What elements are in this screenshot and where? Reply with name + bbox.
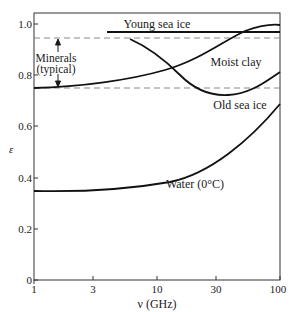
y-tick-label: 0.2 bbox=[18, 223, 32, 235]
water-curve bbox=[34, 104, 280, 191]
young-sea-ice-label: Young sea ice bbox=[124, 17, 191, 31]
x-tick-label: 1 bbox=[31, 283, 37, 295]
water-label: Water (0°C) bbox=[166, 177, 224, 191]
x-tick-label: 30 bbox=[211, 283, 223, 295]
y-tick-label: 1.0 bbox=[18, 18, 32, 30]
permittivity-chart: 0 0.2 0.4 0.6 0.8 1.0 1 3 10 30 100 ν (G… bbox=[0, 0, 295, 312]
y-axis-label: ε bbox=[9, 143, 14, 155]
x-tick-labels: 1 3 10 30 100 bbox=[31, 283, 287, 295]
x-axis-label: ν (GHz) bbox=[137, 297, 176, 311]
y-tick-label: 0.4 bbox=[18, 172, 32, 184]
y-tick-label: 0.6 bbox=[18, 120, 32, 132]
x-tick-label: 3 bbox=[90, 283, 96, 295]
minerals-sublabel: (typical) bbox=[37, 63, 76, 76]
y-tick-labels: 0 0.2 0.4 0.6 0.8 1.0 bbox=[18, 18, 32, 286]
moist-clay-label: Moist clay bbox=[211, 55, 262, 69]
x-tick-label: 10 bbox=[152, 283, 164, 295]
y-tick-label: 0.8 bbox=[18, 69, 32, 81]
old-sea-ice-label: Old sea ice bbox=[213, 98, 266, 112]
x-tick-label: 100 bbox=[270, 283, 287, 295]
